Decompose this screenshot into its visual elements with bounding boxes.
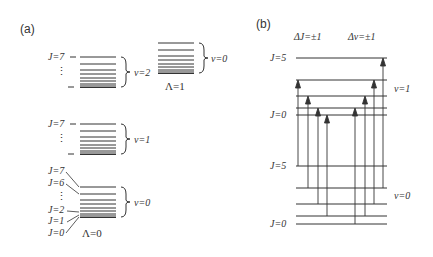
- j6-label: J=6: [48, 177, 64, 188]
- j0-label: J=0: [48, 227, 64, 238]
- brace-v2: [121, 57, 130, 87]
- lower-v-label: v=0: [394, 190, 410, 201]
- lower-j5-label: J=5: [270, 160, 286, 171]
- energy-level-diagram: (a) J=7 ⋮ v=2 v=0 Λ=1: [0, 0, 433, 257]
- panel-a-label: (a): [20, 22, 35, 36]
- v2-label: v=2: [134, 67, 150, 78]
- lambda1-v0-label: v=0: [211, 53, 227, 64]
- delta-j-rule: ΔJ=±1: [293, 31, 322, 42]
- brace-v0: [121, 187, 130, 217]
- panel-b-label: (b): [256, 17, 271, 31]
- j7-label: J=7: [48, 165, 65, 176]
- lambda1-label: Λ=1: [165, 80, 185, 92]
- lower-j0-label: J=0: [270, 218, 286, 229]
- v0-label: v=0: [134, 197, 150, 208]
- brace-lambda1-v0: [199, 43, 208, 73]
- delta-v-rule: Δv=±1: [347, 31, 376, 42]
- lower-levels-v0: [296, 166, 387, 224]
- dots-v2: ⋮: [56, 65, 67, 77]
- upper-v-label: v=1: [394, 83, 410, 94]
- upper-j0-label: J=0: [270, 109, 286, 120]
- v1-levels: [68, 124, 116, 155]
- j-leader-lines: [66, 172, 79, 233]
- lambda0-label: Λ=0: [82, 227, 102, 239]
- lambda1-v0-levels: [158, 43, 194, 74]
- j7-v1-label: J=7: [48, 118, 65, 129]
- v0-levels: [80, 187, 116, 218]
- dots-v0: ⋮: [56, 190, 67, 202]
- transition-arrows: [296, 58, 386, 224]
- v1-label: v=1: [134, 134, 150, 145]
- dots-v1: ⋮: [56, 132, 67, 144]
- brace-v1: [121, 124, 130, 154]
- upper-j5-label: J=5: [270, 52, 286, 63]
- j2-label: J=2: [48, 204, 64, 215]
- v2-levels: [68, 57, 116, 88]
- j7-v2-label: J=7: [48, 51, 65, 62]
- j1-label: J=1: [48, 215, 64, 226]
